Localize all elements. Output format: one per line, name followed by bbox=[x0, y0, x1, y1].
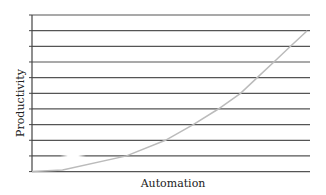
chart-plot bbox=[0, 0, 326, 195]
y-axis-label: Productivity bbox=[14, 69, 27, 137]
x-axis-label: Automation bbox=[141, 177, 206, 190]
gridlines bbox=[32, 15, 310, 172]
productivity-curve bbox=[32, 31, 307, 172]
gridline-fade bbox=[60, 153, 86, 159]
